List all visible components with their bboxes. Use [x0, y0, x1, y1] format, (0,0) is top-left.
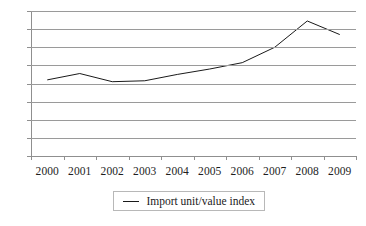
- x-axis-tick: [129, 156, 130, 160]
- legend-item-label: Import unit/value index: [146, 195, 255, 207]
- y-axis-tick: [27, 120, 31, 121]
- y-axis-tick: [27, 102, 31, 103]
- x-axis-tick: [356, 156, 357, 160]
- gridline: [31, 29, 356, 30]
- y-axis-tick: [27, 65, 31, 66]
- x-axis-tick: [161, 156, 162, 160]
- x-axis-tick: [194, 156, 195, 160]
- gridline: [31, 84, 356, 85]
- gridline: [31, 120, 356, 121]
- y-axis-tick: [27, 47, 31, 48]
- y-axis-tick-labels: 020406080100120140160: [0, 0, 32, 226]
- x-axis-tick: [291, 156, 292, 160]
- gridline: [31, 102, 356, 103]
- x-axis-tick: [259, 156, 260, 160]
- y-axis-tick: [27, 29, 31, 30]
- plot-area: [31, 11, 356, 156]
- y-axis-tick: [27, 84, 31, 85]
- x-axis-tick: [226, 156, 227, 160]
- gridline: [31, 65, 356, 66]
- x-axis-tick: [96, 156, 97, 160]
- chart-legend[interactable]: Import unit/value index: [113, 191, 265, 211]
- y-axis-tick: [27, 11, 31, 12]
- line-swatch-icon: [123, 201, 139, 202]
- x-axis-tick: [324, 156, 325, 160]
- gridline: [31, 47, 356, 48]
- x-axis-tick-label: 2009: [319, 165, 361, 177]
- gridline: [31, 11, 356, 12]
- x-axis-tick: [64, 156, 65, 160]
- y-axis-tick: [27, 138, 31, 139]
- series-line: [47, 21, 340, 82]
- x-axis-tick: [31, 156, 32, 160]
- gridline: [31, 138, 356, 139]
- chart-container: 020406080100120140160 200020012002200320…: [0, 0, 366, 226]
